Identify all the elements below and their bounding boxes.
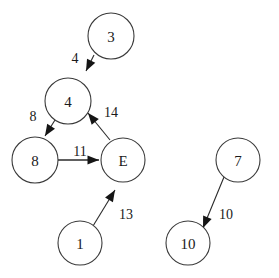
arrow-head-icon	[105, 190, 115, 202]
node-label: 3	[107, 29, 115, 45]
edge-weights-layer: 4811141310	[30, 51, 234, 222]
node-label: 10	[181, 236, 196, 252]
node-label: 4	[64, 94, 72, 110]
edge-weight-label: 10	[219, 207, 233, 222]
node-label: 1	[76, 236, 84, 252]
arrow-head-icon	[88, 155, 100, 164]
node-label: E	[118, 153, 127, 169]
graph-node-1[interactable]: 1	[58, 221, 102, 265]
edge-weight-label: 11	[73, 144, 86, 159]
nodes-layer: 348E1710	[12, 13, 260, 265]
arrow-head-icon	[88, 113, 99, 125]
graph-canvas: 348E1710 4811141310	[0, 0, 279, 278]
node-label: 8	[31, 153, 39, 169]
graph-node-3[interactable]: 3	[88, 13, 134, 59]
graph-svg: 348E1710 4811141310	[0, 0, 279, 278]
arrow-head-icon	[45, 124, 55, 136]
edge-weight-label: 13	[119, 207, 133, 222]
arrow-head-icon	[86, 59, 95, 71]
graph-node-8[interactable]: 8	[12, 137, 58, 183]
edge-weight-label: 14	[104, 105, 118, 120]
arrow-head-icon	[203, 216, 212, 228]
graph-node-10[interactable]: 10	[166, 221, 210, 265]
node-label: 7	[234, 153, 242, 169]
graph-node-7[interactable]: 7	[216, 138, 260, 182]
edge-weight-label: 8	[30, 109, 37, 124]
graph-node-4[interactable]: 4	[45, 78, 91, 124]
graph-node-E[interactable]: E	[101, 138, 145, 182]
edge-weight-label: 4	[72, 51, 79, 66]
